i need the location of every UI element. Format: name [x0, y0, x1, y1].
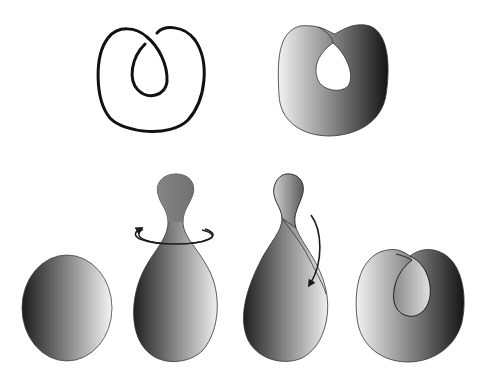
folded-surface-panel: [356, 249, 464, 362]
knot-inner-loop: [132, 37, 167, 96]
knot-curve-panel: [98, 28, 204, 132]
spanning-surface: [278, 25, 388, 136]
twisted-sphere-panel: [244, 174, 328, 361]
pin-head-shade: [157, 174, 193, 222]
spanning-surface-panel: [278, 25, 388, 136]
sphere-panel: [22, 255, 112, 361]
pinched-sphere-panel: [134, 174, 218, 362]
twisted-pin-head: [274, 174, 303, 228]
knot-curve: [98, 28, 204, 132]
sphere: [22, 255, 112, 361]
seifert-surface-diagram: [0, 0, 488, 381]
